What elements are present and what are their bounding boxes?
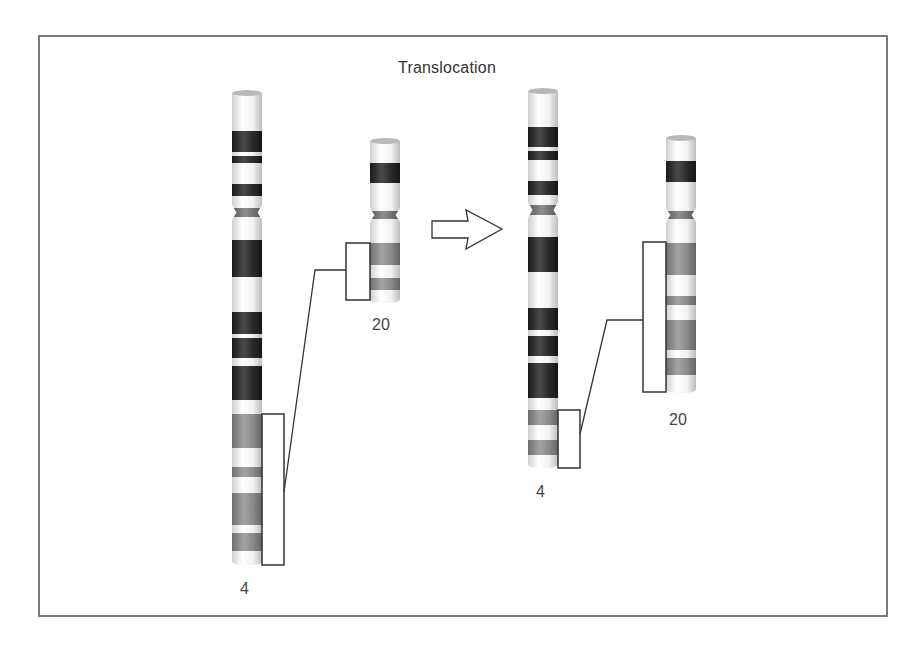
gray-band [528, 440, 558, 455]
dark-band [232, 366, 262, 400]
after-chromosome-4 [528, 88, 580, 468]
before-chromosome-20 [346, 138, 400, 303]
diagram-stage: Translocation [0, 0, 921, 648]
after-chromosome-20 [643, 135, 696, 393]
dark-band [528, 336, 558, 356]
dark-band [370, 163, 400, 183]
centromere [528, 205, 558, 215]
dark-band [232, 184, 262, 196]
dark-band [528, 237, 558, 272]
dark-band [232, 338, 262, 358]
dark-band [232, 131, 262, 152]
gray-band [232, 467, 262, 477]
before-chromosome-4 [232, 90, 284, 565]
translocation-bracket [558, 410, 580, 468]
gray-band [370, 278, 400, 290]
dark-band [528, 308, 558, 330]
chromosome-cap [232, 90, 262, 96]
chromosome-cap [370, 138, 400, 144]
label-before-chromosome-4: 4 [240, 580, 249, 598]
gray-band [666, 358, 696, 375]
dark-band [232, 156, 262, 163]
centromere [370, 211, 400, 219]
gray-band [666, 243, 696, 275]
before-connector-line [284, 270, 346, 492]
translocation-bracket [262, 414, 284, 565]
chromosome-diagram [0, 0, 921, 648]
chromosome-cap [666, 135, 696, 141]
dark-band [232, 240, 262, 277]
centromere [232, 208, 262, 217]
dark-band [528, 363, 558, 398]
label-after-chromosome-20: 20 [669, 411, 687, 429]
label-after-chromosome-4: 4 [536, 483, 545, 501]
gray-band [232, 414, 262, 448]
chromosome-cap [528, 88, 558, 94]
dark-band [528, 151, 558, 160]
dark-band [528, 127, 558, 147]
label-before-chromosome-20: 20 [372, 316, 390, 334]
gray-band [666, 296, 696, 305]
translocation-bracket [643, 242, 666, 392]
dark-band [528, 181, 558, 195]
gray-band [232, 533, 262, 551]
gray-band [370, 243, 400, 265]
gray-band [528, 410, 558, 425]
gray-band [666, 320, 696, 350]
gray-band [232, 493, 262, 525]
dark-band [232, 312, 262, 334]
translocation-bracket [346, 243, 370, 300]
after-connector-line [580, 320, 643, 434]
right-arrow-icon [432, 210, 502, 249]
dark-band [666, 161, 696, 182]
centromere [666, 211, 696, 219]
